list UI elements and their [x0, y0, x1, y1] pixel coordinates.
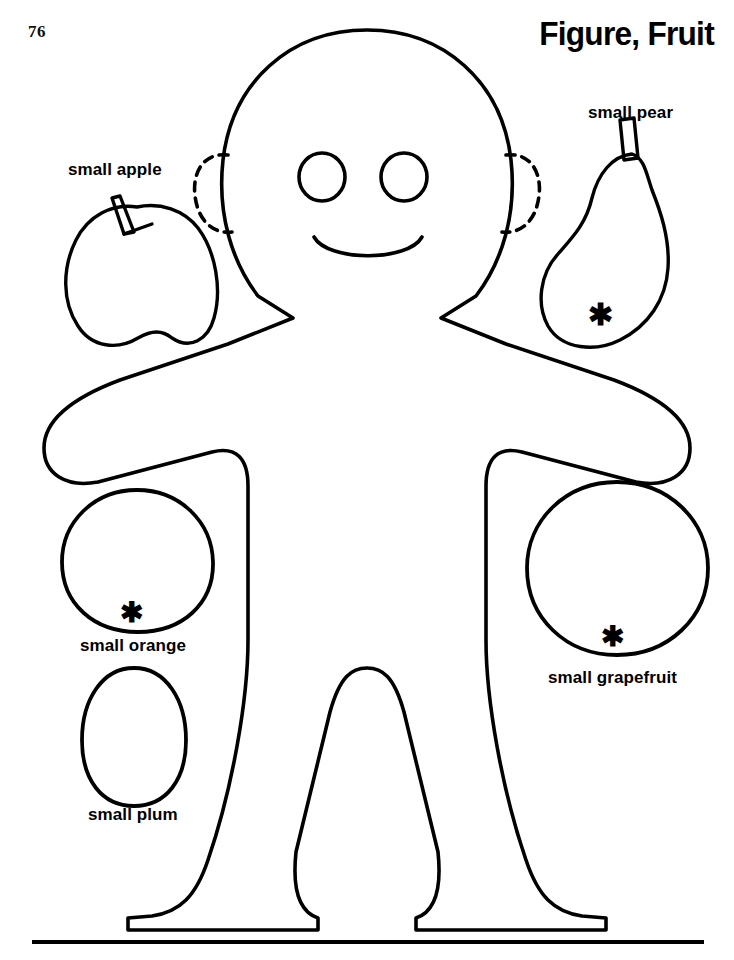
plum-outline — [82, 668, 186, 806]
label-small-plum: small plum — [88, 805, 178, 825]
apple-leaf-line — [124, 224, 152, 234]
grapefruit-asterisk: ✱ — [601, 621, 624, 652]
label-small-pear: small pear — [588, 103, 673, 123]
smile — [314, 237, 422, 256]
label-small-apple: small apple — [68, 160, 162, 180]
label-small-orange: small orange — [80, 636, 186, 656]
left-eye — [299, 153, 345, 201]
page-title: Figure, Fruit — [539, 16, 714, 50]
pear-asterisk: ✱ — [588, 298, 613, 331]
bottom-rule — [32, 940, 704, 944]
orange-asterisk: ✱ — [120, 597, 143, 628]
apple-stem — [112, 196, 134, 234]
worksheet-page: ✱ ✱ ✱ 76 Figure, Fruit small apple small… — [0, 0, 734, 960]
page-number: 76 — [28, 22, 46, 42]
right-eye — [381, 153, 427, 201]
label-small-grapefruit: small grapefruit — [548, 668, 677, 688]
